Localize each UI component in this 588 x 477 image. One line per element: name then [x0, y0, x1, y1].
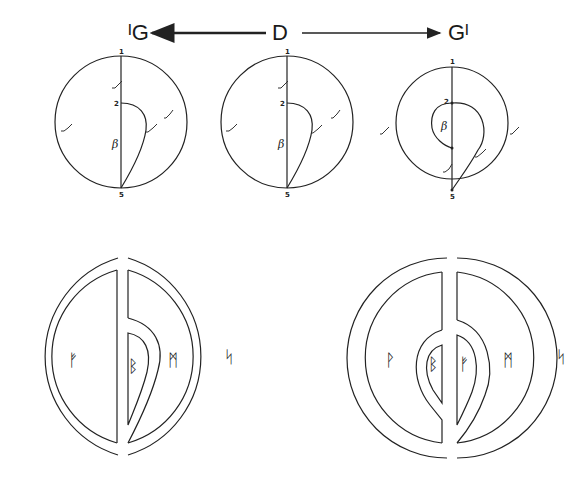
- label-5: 5: [119, 191, 124, 199]
- label-beta: β: [111, 138, 118, 151]
- rune-wunjo: ᚹ: [385, 350, 395, 370]
- rune-fehu: ᚠ: [459, 354, 469, 374]
- rune-mannaz: ᛗ: [503, 350, 513, 370]
- label-beta: β: [277, 138, 284, 151]
- header: ᴵG D Gᴵ: [128, 20, 469, 45]
- rune-outside: ᛋ: [556, 347, 566, 367]
- label-1: 1: [450, 58, 455, 66]
- label-1: 1: [119, 48, 124, 56]
- label-2: 2: [280, 100, 285, 108]
- top-diagram-left: 1 2 5 β: [55, 48, 187, 199]
- rune-outside: ᛋ: [224, 347, 234, 367]
- label-d: D: [272, 20, 288, 45]
- label-1: 1: [285, 48, 290, 56]
- rune-berkano: ᛒ: [128, 356, 138, 376]
- top-diagram-right: 1 2 5 β: [380, 58, 519, 201]
- label-5: 5: [450, 193, 455, 201]
- label-beta: β: [440, 120, 447, 133]
- rune-fehu: ᚠ: [68, 350, 78, 370]
- top-diagram-center: 1 2 5 β: [221, 48, 353, 199]
- bottom-diagram-left: ᚠ ᛒ ᛗ ᛋ: [45, 258, 234, 455]
- diagram-canvas: ᴵG D Gᴵ 1 2 5 β 1 2 5 β: [0, 0, 588, 477]
- rune-mannaz: ᛗ: [168, 350, 178, 370]
- bottom-diagram-right: ᚹ ᛒ ᚠ ᛗ ᛋ: [347, 258, 566, 458]
- label-2: 2: [444, 98, 449, 106]
- label-right-g: Gᴵ: [448, 20, 469, 45]
- label-5: 5: [285, 191, 290, 199]
- rune-berkano: ᛒ: [428, 354, 438, 374]
- label-left-g: ᴵG: [128, 20, 149, 45]
- label-2: 2: [114, 100, 119, 108]
